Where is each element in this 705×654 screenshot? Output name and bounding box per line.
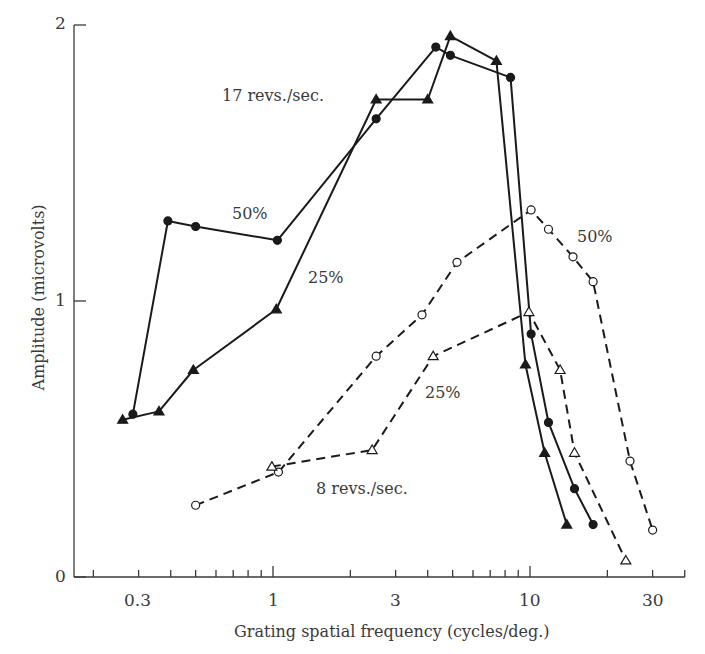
y-ticks [74, 25, 86, 577]
series-line [133, 47, 593, 524]
series-line [123, 36, 567, 525]
open-circle-marker [649, 526, 657, 534]
filled-circle-marker [446, 51, 454, 59]
x-ticks [93, 566, 684, 577]
filled-circle-marker [273, 236, 281, 244]
series-17-revs-sec-25- [118, 31, 572, 528]
x-tick-label-0.3: 0.3 [124, 590, 151, 610]
series-17-revs-sec-50- [129, 43, 597, 528]
open-circle-marker [372, 352, 380, 360]
filled-circle-marker [372, 115, 380, 123]
annotation-8-25pct: 25% [425, 383, 461, 402]
filled-triangle-marker [445, 31, 455, 40]
open-triangle-marker [555, 365, 565, 374]
annotation-17-50pct: 50% [232, 204, 268, 223]
open-circle-marker [626, 457, 634, 465]
filled-circle-marker [192, 222, 200, 230]
series-8-revs-sec-25- [267, 307, 631, 564]
x-axis-title: Grating spatial frequency (cycles/deg.) [234, 622, 550, 641]
filled-triangle-marker [271, 304, 281, 313]
filled-triangle-marker [491, 56, 501, 64]
annotation-17-revs: 17 revs./sec. [222, 86, 324, 105]
open-triangle-marker [621, 555, 631, 564]
annotation-8-50pct: 50% [577, 227, 613, 246]
x-tick-label-30: 30 [642, 590, 664, 610]
filled-triangle-marker [540, 448, 550, 457]
y-tick-label-1: 1 [55, 290, 66, 310]
open-circle-marker [418, 311, 426, 319]
filled-circle-marker [432, 43, 440, 51]
filled-triangle-marker [520, 359, 530, 368]
filled-circle-marker [164, 217, 172, 225]
y-tick-label-2: 2 [55, 13, 66, 33]
annotation-8-revs: 8 revs./sec. [316, 479, 408, 498]
open-circle-marker [569, 253, 577, 261]
y-axis-title: Amplitude (microvolts) [29, 198, 48, 398]
filled-circle-marker [507, 73, 515, 81]
filled-circle-marker [544, 418, 552, 426]
open-circle-marker [192, 501, 200, 509]
open-triangle-marker [524, 307, 534, 316]
x-tick-label-10: 10 [519, 590, 541, 610]
open-circle-marker [527, 206, 535, 214]
filled-triangle-marker [562, 520, 572, 529]
open-triangle-marker [570, 448, 580, 457]
open-circle-marker [544, 225, 552, 233]
open-circle-marker [589, 278, 597, 286]
filled-circle-marker [571, 485, 579, 493]
open-circle-marker [453, 258, 461, 266]
annotation-17-25pct: 25% [308, 268, 344, 287]
filled-circle-marker [527, 330, 535, 338]
series-line [272, 312, 626, 560]
x-tick-label-3: 3 [390, 590, 401, 610]
x-tick-label-1: 1 [268, 590, 279, 610]
y-tick-label-0: 0 [55, 566, 66, 586]
amplitude-vs-frequency-chart [0, 0, 705, 654]
filled-circle-marker [589, 521, 597, 529]
